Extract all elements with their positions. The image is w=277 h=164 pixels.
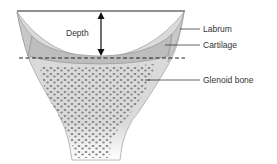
depth-arrow bbox=[98, 12, 105, 56]
depth-label: Depth bbox=[66, 29, 89, 38]
glenoid-bone-label: Glenoid bone bbox=[203, 76, 254, 85]
trabecular-pattern bbox=[30, 60, 170, 160]
labrum-label: Labrum bbox=[203, 25, 232, 34]
cartilage-label: Cartilage bbox=[203, 41, 237, 50]
